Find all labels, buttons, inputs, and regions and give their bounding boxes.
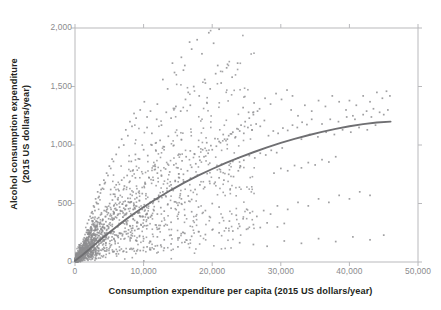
data-point <box>153 206 155 208</box>
data-point <box>157 177 159 179</box>
data-point <box>255 123 257 125</box>
data-point <box>221 248 223 250</box>
data-point <box>236 208 238 210</box>
data-point <box>243 201 245 203</box>
data-point <box>252 211 254 213</box>
data-point <box>223 220 225 222</box>
data-point <box>163 210 165 212</box>
data-point <box>114 234 116 236</box>
data-point <box>108 228 110 230</box>
data-point <box>198 166 200 168</box>
data-point <box>108 236 110 238</box>
data-point <box>93 232 95 234</box>
data-point <box>237 69 239 71</box>
data-point <box>190 190 192 192</box>
data-point <box>135 139 137 141</box>
data-point <box>213 183 215 185</box>
data-point <box>77 255 79 256</box>
data-point <box>168 229 170 231</box>
data-point <box>369 101 371 103</box>
data-point <box>232 239 234 241</box>
data-point <box>97 235 99 237</box>
data-point <box>250 138 252 140</box>
data-point <box>118 253 120 255</box>
data-point <box>162 146 164 148</box>
data-point <box>181 198 183 200</box>
data-point <box>131 257 133 259</box>
data-point <box>142 236 144 238</box>
data-point <box>193 220 195 222</box>
data-point <box>111 226 113 228</box>
data-point <box>259 152 261 154</box>
data-point <box>82 260 84 262</box>
data-point <box>175 106 177 108</box>
data-point <box>192 226 194 228</box>
data-point <box>124 209 126 211</box>
data-point <box>165 195 167 197</box>
data-point <box>232 131 234 133</box>
data-point <box>338 101 340 103</box>
data-point <box>196 219 198 221</box>
data-point <box>155 142 157 144</box>
data-point <box>145 221 147 223</box>
data-point <box>94 210 96 212</box>
data-point <box>180 84 182 86</box>
data-point <box>334 134 336 136</box>
data-point <box>121 138 123 140</box>
data-point <box>311 110 313 112</box>
data-point <box>167 88 169 90</box>
data-point <box>352 115 354 117</box>
data-point <box>107 212 109 214</box>
data-point <box>346 116 348 118</box>
data-point <box>141 187 143 189</box>
data-point <box>92 213 94 215</box>
data-point <box>165 224 167 226</box>
data-point <box>200 205 202 207</box>
data-point <box>86 229 88 231</box>
data-point <box>203 181 205 183</box>
data-point <box>175 163 177 165</box>
data-point <box>116 251 118 253</box>
data-point <box>110 219 112 221</box>
data-point <box>166 224 168 226</box>
data-point <box>83 250 85 252</box>
data-point <box>204 147 206 149</box>
data-point <box>111 236 113 238</box>
data-point <box>281 147 283 149</box>
data-point <box>128 229 130 231</box>
data-point <box>128 236 130 238</box>
data-point <box>131 195 133 197</box>
data-point <box>141 144 143 146</box>
data-point <box>129 198 131 200</box>
data-point <box>119 213 121 215</box>
data-point <box>87 231 89 233</box>
data-point <box>129 188 131 190</box>
data-point <box>130 201 132 203</box>
data-point <box>145 172 147 174</box>
data-point <box>150 144 152 146</box>
data-point <box>99 224 101 226</box>
data-point <box>124 238 126 240</box>
data-point <box>218 28 220 30</box>
data-point <box>126 223 128 225</box>
data-point <box>251 129 253 131</box>
data-point <box>249 212 251 214</box>
data-point <box>376 92 378 94</box>
data-point <box>181 160 183 162</box>
data-point <box>154 164 156 166</box>
data-point <box>106 247 108 249</box>
data-point <box>230 193 232 195</box>
data-point <box>147 196 149 198</box>
data-point <box>256 216 258 218</box>
data-point <box>170 200 172 202</box>
data-point <box>187 92 189 94</box>
data-point <box>101 233 103 235</box>
data-point <box>191 211 193 213</box>
data-point <box>190 128 192 130</box>
y-tick-label: 0 <box>38 256 72 266</box>
data-point <box>338 195 340 197</box>
data-point <box>147 161 149 163</box>
data-point <box>249 177 251 179</box>
data-point <box>237 228 239 230</box>
data-point <box>143 101 145 103</box>
